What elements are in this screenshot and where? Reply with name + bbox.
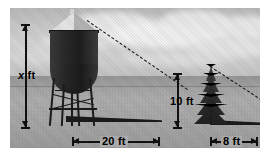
tower-brace <box>55 90 91 91</box>
tower-roof-shade <box>74 12 98 32</box>
dimension-label-x-ft: x ft <box>18 70 35 81</box>
arrowhead-right-icon <box>251 138 257 144</box>
dimension-cap-bottom <box>173 127 182 129</box>
photograph: x ft 10 ft 20 ft 8 ft <box>10 8 260 148</box>
pine-tree-icon <box>188 64 234 126</box>
water-tower-icon <box>43 12 105 124</box>
tower-leg <box>49 78 55 126</box>
dimension-label-20-ft: 20 ft <box>100 136 128 147</box>
dimension-label-8-ft: 8 ft <box>221 136 242 147</box>
tower-brace <box>49 108 97 110</box>
arrowhead-down-icon <box>174 121 180 127</box>
tower-finial <box>70 9 74 14</box>
arrowhead-left-icon <box>73 138 79 144</box>
tree-trunk <box>209 116 212 124</box>
arrowhead-down-icon <box>22 121 28 127</box>
dimension-label-10-ft: 10 ft <box>170 96 194 107</box>
similar-triangles-figure: x ft 10 ft 20 ft 8 ft <box>0 0 275 161</box>
dimension-cap-bottom <box>21 127 30 129</box>
arrowhead-left-icon <box>211 138 217 144</box>
arrowhead-up-icon <box>22 25 28 31</box>
arrowhead-up-icon <box>174 74 180 80</box>
arrowhead-right-icon <box>153 138 159 144</box>
